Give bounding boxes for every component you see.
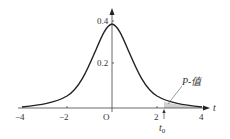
x-axis-label-t: t [213,102,216,113]
t-distribution-chart: −4 −2 O 2 4 0.2 0.4 t P-值 t0 [0,0,230,139]
x-tick-label-m2: −2 [59,112,69,122]
t0-arrow-icon [162,109,165,113]
t0-label: t0 [159,122,166,135]
y-axis-arrow-icon [110,8,115,15]
y-tick-label-02: 0.2 [97,58,108,68]
p-value-leader-line [168,86,182,104]
x-tick-label-m4: −4 [15,112,25,122]
p-value-label: P-值 [181,76,203,87]
x-tick-label-4: 4 [199,112,204,122]
x-axis-arrow-icon [203,106,210,111]
x-tick-label-2: 2 [154,112,159,122]
chart-svg: −4 −2 O 2 4 0.2 0.4 t P-值 t0 [0,0,230,139]
y-tick-label-04: 0.4 [97,16,109,26]
origin-label: O [103,112,110,122]
